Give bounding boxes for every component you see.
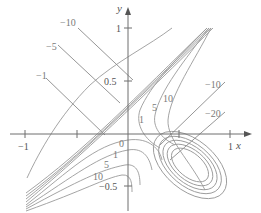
contour-label: 0 <box>119 138 124 149</box>
contour-label: −20 <box>205 108 221 119</box>
x-tick-neg1: −1 <box>18 141 29 152</box>
contour-label: 10 <box>163 93 173 104</box>
contour-label: 5 <box>104 159 109 170</box>
contour-label: −10 <box>60 17 76 28</box>
y-axis-label: y <box>116 2 122 14</box>
contour-label: 1 <box>113 149 118 160</box>
contour-label: 1 <box>139 114 144 125</box>
y-axis-arrow <box>125 7 131 15</box>
contour-label: −5 <box>46 41 57 52</box>
y-tick-half: 0.5 <box>104 76 117 87</box>
contour-label: 5 <box>152 102 157 113</box>
contour-label: 10 <box>93 171 103 182</box>
x-axis-label: x <box>235 139 241 151</box>
x-tick-1: 1 <box>228 141 233 152</box>
contour-label: −1 <box>36 70 47 81</box>
y-tick-1: 1 <box>116 23 121 34</box>
contour-plot: x y −1 1 1 0.5 −0.5 −10 −5 −1 −10 −20 10… <box>0 0 261 213</box>
x-axis-arrow <box>244 131 252 137</box>
y-tick-neghalf: −0.5 <box>99 181 117 192</box>
contour-label: −10 <box>205 79 221 90</box>
